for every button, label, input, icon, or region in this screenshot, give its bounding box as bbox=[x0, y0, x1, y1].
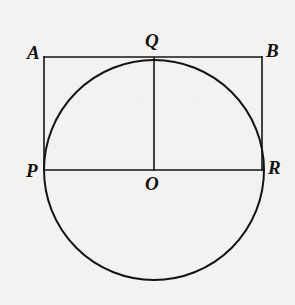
label-A: A bbox=[27, 43, 40, 62]
label-P: P bbox=[26, 161, 38, 180]
label-Q: Q bbox=[145, 31, 159, 50]
label-B: B bbox=[266, 41, 279, 60]
geometry-figure: A Q B P O R bbox=[0, 0, 295, 305]
label-R: R bbox=[268, 158, 281, 177]
label-O: O bbox=[145, 174, 159, 193]
